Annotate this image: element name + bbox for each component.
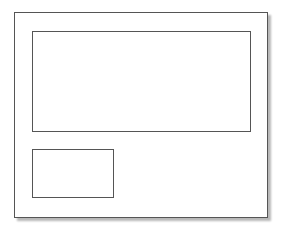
- small-content-panel: [32, 149, 114, 198]
- large-content-panel: [32, 31, 251, 132]
- page-frame: [14, 12, 268, 218]
